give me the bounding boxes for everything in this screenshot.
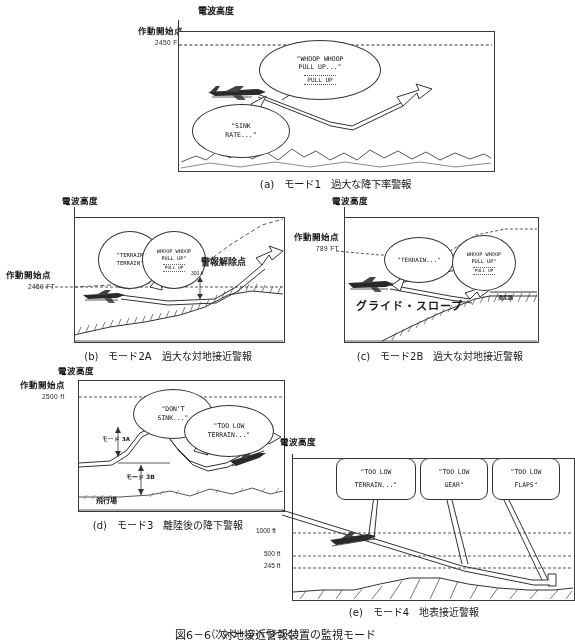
panel-mode-3: 電波高度 作動開始点 2500 ft (0, 375, 300, 540)
panel-c-glide-slope-label: グライド・スロープ (356, 301, 463, 314)
callout-too-low-terrain-d: "TOO LOW TERRAIN..." (184, 405, 274, 457)
panel-d-mode3b-label: モード 3B (126, 474, 155, 481)
callout-line: "TERRAIN..." (397, 256, 440, 264)
callout-line: "DON'T (161, 405, 184, 414)
panel-mode-2a: 電波高度 作動開始点 2450 FT (0, 195, 300, 370)
figure-continuation: （次ページへつづく） (205, 627, 305, 642)
pull-up-indicator: PULL UP (473, 267, 496, 275)
callout-line: "SINK (231, 122, 251, 131)
callout-too-low-terrain-e: "TOO LOW TERRAIN..." (336, 458, 416, 500)
panel-d-airfield-label: 飛行場 (96, 497, 117, 505)
callout-line: WHOOP WHOOP (157, 248, 191, 255)
callout-line: "TOO LOW (511, 468, 542, 477)
panel-mode-2b: 電波高度 作動開始点 789 FT (300, 195, 575, 370)
pull-up-indicator: PULL UP (163, 264, 186, 272)
panel-c-caption: (c) モード2B 過大な対地接近警報 (320, 348, 560, 363)
callout-too-low-flaps-e: "TOO LOW FLAPS" (492, 458, 560, 500)
panel-mode-4: 電波高度 (262, 440, 575, 625)
panel-c-runway-label: 滑走路 (498, 295, 513, 301)
pull-up-indicator: PULL UP (304, 75, 335, 85)
callout-whoop-pull-up-c: WHOOP WHOOP PULL UP" PULL UP (452, 235, 516, 291)
callout-line: "TOO LOW (361, 468, 392, 477)
callout-line: FLAPS" (514, 481, 537, 490)
panel-b-cancel-label: 警報解除点 (201, 257, 246, 267)
callout-line: PULL UP..." (298, 63, 341, 72)
callout-line: "WHOOP WHOOP (297, 55, 344, 64)
panel-mode-1: 電波高度 作動開始点 2450 FT "WHOOP WHOOP PULL UP.… (0, 0, 575, 195)
callout-line: RATE..." (225, 131, 256, 140)
callout-line: "TOO LOW (439, 468, 470, 477)
callout-line: TERRAIN..." (355, 481, 397, 490)
callout-line: PULL UP" (472, 258, 497, 265)
callout-line: SINK..." (158, 414, 189, 423)
callout-line: "TOO LOW (214, 422, 245, 431)
panel-e-tick-1000: 1000 ft (256, 527, 276, 534)
panel-d-mode3a-label: モード 3A (102, 436, 130, 442)
callout-terrain-c: "TERRAIN..." (384, 237, 454, 283)
panel-e-tick-500: 500 ft (264, 550, 280, 557)
callout-line: PULL UP" (162, 255, 187, 262)
panel-a-caption: (a) モード1 過大な降下率警報 (198, 176, 473, 191)
panel-d-caption: (d) モード3 離陸後の降下警報 (48, 517, 288, 532)
panel-b-cancel-value: 300 ft (191, 271, 204, 277)
callout-sink-rate-a: "SINK RATE..." (192, 104, 290, 158)
callout-line: TERRAIN..." (208, 431, 250, 440)
callout-whoop-pull-up-a: "WHOOP WHOOP PULL UP..." PULL UP (259, 40, 381, 100)
callout-too-low-gear-e: "TOO LOW GEAR" (420, 458, 488, 500)
callout-line: TERRAIN" (117, 260, 144, 268)
panel-c-artwork (300, 195, 575, 370)
callout-line: WHOOP WHOOP (467, 251, 501, 258)
callout-line: GEAR" (444, 481, 463, 490)
panel-a-artwork (0, 0, 575, 195)
panel-e-tick-245: 245 ft (264, 562, 280, 569)
callout-line: "TERRAIN (117, 252, 144, 260)
panel-b-caption: (b) モード2A 過大な対地接近警報 (48, 348, 288, 363)
callout-whoop-pull-up-b: WHOOP WHOOP PULL UP" PULL UP (142, 231, 206, 289)
